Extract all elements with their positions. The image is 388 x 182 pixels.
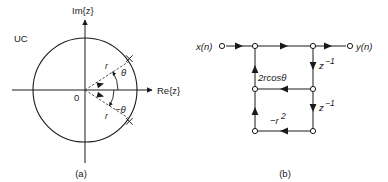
unit-circle-label: UC [14, 33, 28, 44]
branch-node-left-bottom [252, 128, 257, 133]
arrow-output [324, 43, 332, 50]
panel-a-z-plane: Im{z} Re{z} UC 0 r r θ −θ (a) [0, 0, 194, 182]
angle-arc-upper [113, 72, 118, 90]
delay-label-1: z −1 [318, 56, 335, 71]
delay-exponent-1: −1 [325, 56, 335, 66]
coefficient-label-2: −r 2 [270, 111, 286, 126]
arrow-feedback-2 [280, 128, 288, 135]
summing-node [252, 43, 257, 48]
arrow-return-lower [252, 107, 259, 115]
angle-arc-lower [109, 90, 114, 106]
imaginary-axis-label: Im{z} [72, 5, 94, 16]
delay-label-2: z −1 [318, 98, 335, 113]
real-axis-label: Re{z} [157, 85, 180, 96]
output-terminal-node [347, 43, 352, 48]
panel-b-caption: (b) [279, 168, 291, 179]
coefficient-label-1: 2rcosθ [257, 72, 287, 83]
radius-arrow-upper [97, 83, 105, 89]
delay-exponent-2: −1 [325, 98, 335, 108]
arrow-input [235, 43, 243, 50]
panel-a-caption: (a) [75, 168, 87, 179]
radius-label-lower: r [105, 111, 109, 121]
arrow-delay-1 [310, 62, 317, 70]
state-node-mid [310, 86, 315, 91]
radius-label-upper: r [105, 61, 109, 71]
panel-b-flow-graph: x(n) y(n) z −1 z −1 2rcosθ −r 2 (b) [194, 0, 388, 182]
arrow-delay-2 [310, 104, 317, 112]
output-label: y(n) [355, 41, 372, 52]
arrow-feedback-1 [280, 86, 288, 93]
angle-label-upper: θ [121, 67, 127, 78]
input-label: x(n) [195, 41, 212, 52]
coefficient-exponent-2: 2 [280, 111, 286, 121]
state-node-top [310, 43, 315, 48]
branch-node-left-mid [252, 86, 257, 91]
angle-label-lower: −θ [115, 104, 127, 115]
radius-arrow-lower [97, 92, 105, 98]
input-terminal-node [219, 43, 224, 48]
svg-text:−r: −r [270, 115, 280, 126]
figure-root: Im{z} Re{z} UC 0 r r θ −θ (a) [0, 0, 388, 182]
svg-text:z: z [318, 60, 324, 71]
origin-label: 0 [74, 92, 79, 103]
svg-text:z: z [318, 102, 324, 113]
state-node-bottom [310, 128, 315, 133]
arrow-forward [280, 43, 288, 50]
